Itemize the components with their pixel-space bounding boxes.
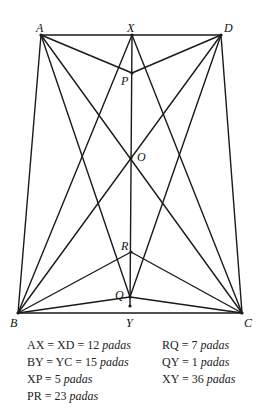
label-B: B [10,317,17,329]
vertex-P [130,71,133,74]
label-D: D [224,22,233,34]
segment-CR [131,252,242,313]
segment-DB [18,35,221,313]
segment-DQ [130,35,221,297]
geometry-diagram [0,0,264,330]
segment-XC [132,35,242,313]
label-C: C [244,317,252,329]
vertex-Y [128,304,131,307]
segment-AQ [41,35,130,297]
segment-CQ [130,297,242,313]
segment-XY [130,35,132,306]
label-A: A [36,22,43,34]
segment-BQ [18,297,130,313]
segment-XB [18,35,132,313]
vertex-Q [128,295,131,298]
measurement-qy: QY = 1 padas [162,356,229,368]
label-Q: Q [115,289,124,301]
measurement-ax-xd: AX = XD = 12 padas [27,339,131,351]
measurement-rq: RQ = 7 padas [162,339,229,351]
label-Y: Y [126,317,133,329]
segment-AC [41,35,242,313]
label-P: P [121,75,128,87]
label-R: R [121,240,128,252]
measurement-by-yc: BY = YC = 15 padas [27,356,129,368]
vertex-R [129,250,132,253]
label-O: O [137,151,146,163]
vertex-D [219,33,222,36]
measurement-pr: PR = 23 padas [27,390,98,402]
vertex-B [16,311,19,314]
measurement-xp: XP = 5 padas [27,373,92,385]
segment-AB [18,35,41,313]
segment-BR [18,252,131,313]
label-X: X [127,22,134,34]
vertex-O [129,156,132,159]
vertex-C [240,311,243,314]
diagram-segments [18,35,242,313]
measurement-xy: XY = 36 padas [162,373,235,385]
segment-DC [221,35,242,313]
